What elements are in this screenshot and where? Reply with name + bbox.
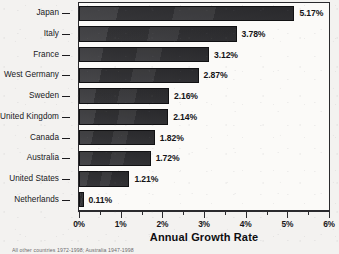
category-tick bbox=[62, 179, 70, 180]
bar-value-label: 2.16% bbox=[174, 91, 198, 101]
bar-value-label: 2.14% bbox=[173, 112, 197, 122]
bar[interactable] bbox=[79, 109, 168, 124]
bar-row: 2.87% bbox=[79, 68, 329, 83]
category-tick bbox=[62, 13, 70, 14]
x-axis-tick-label: 5% bbox=[281, 219, 293, 229]
bar[interactable] bbox=[79, 151, 151, 166]
x-axis-major-tick bbox=[204, 211, 205, 218]
x-axis-tick-label: 6% bbox=[323, 219, 335, 229]
x-axis-major-tick bbox=[79, 211, 80, 218]
x-axis-tick-label: 2% bbox=[156, 219, 168, 229]
x-axis-tick-label: 1% bbox=[115, 219, 127, 229]
category-tick bbox=[62, 34, 70, 35]
category-label: Japan bbox=[0, 9, 70, 17]
x-axis-tick-label: 3% bbox=[198, 219, 210, 229]
x-axis-minor-tick bbox=[100, 211, 101, 215]
x-axis-major-tick bbox=[121, 211, 122, 218]
bar-row: 1.21% bbox=[79, 171, 329, 186]
x-axis-major-tick bbox=[162, 211, 163, 218]
x-axis-minor-tick bbox=[267, 211, 268, 215]
bar[interactable] bbox=[79, 6, 294, 21]
category-label: France bbox=[0, 51, 70, 59]
x-axis-tick-label: 4% bbox=[240, 219, 252, 229]
bar[interactable] bbox=[79, 47, 209, 62]
bar-row: 2.16% bbox=[79, 88, 329, 103]
bar-value-label: 2.87% bbox=[204, 70, 228, 80]
bar-row: 1.82% bbox=[79, 130, 329, 145]
bar-row: 2.14% bbox=[79, 109, 329, 124]
bar[interactable] bbox=[79, 171, 129, 186]
category-label-column: JapanItalyFranceWest GermanySwedenUnited… bbox=[0, 4, 70, 212]
bar-value-label: 3.12% bbox=[214, 50, 238, 60]
category-label: Italy bbox=[0, 30, 70, 38]
category-label: Canada bbox=[0, 134, 70, 142]
category-tick bbox=[62, 117, 70, 118]
category-tick bbox=[62, 96, 70, 97]
chart-footnote: All other countries 1972-1998; Australia… bbox=[12, 247, 134, 253]
category-label: United Kingdom bbox=[0, 113, 70, 121]
x-axis-minor-tick bbox=[142, 211, 143, 215]
bar[interactable] bbox=[79, 26, 237, 41]
bars-layer: 5.17%3.78%3.12%2.87%2.16%2.14%1.82%1.72%… bbox=[79, 3, 329, 210]
category-tick bbox=[62, 138, 70, 139]
bar-row: 5.17% bbox=[79, 6, 329, 21]
category-label: Netherlands bbox=[0, 196, 70, 204]
category-label: West Germany bbox=[0, 71, 70, 79]
bar[interactable] bbox=[79, 68, 199, 83]
bar-value-label: 0.11% bbox=[89, 195, 112, 205]
category-tick bbox=[62, 75, 70, 76]
bar-row: 3.12% bbox=[79, 47, 329, 62]
bar-value-label: 5.17% bbox=[299, 8, 323, 18]
x-axis-title: Annual Growth Rate bbox=[78, 231, 330, 243]
bar-chart-figure: JapanItalyFranceWest GermanySwedenUnited… bbox=[0, 0, 339, 254]
bar[interactable] bbox=[79, 130, 155, 145]
x-axis-major-tick bbox=[329, 211, 330, 218]
category-label: Sweden bbox=[0, 92, 70, 100]
bar[interactable] bbox=[79, 88, 169, 103]
category-tick bbox=[62, 200, 70, 201]
category-label: Australia bbox=[0, 154, 70, 162]
bar-row: 0.11% bbox=[79, 192, 329, 207]
x-axis-minor-tick bbox=[308, 211, 309, 215]
bar-value-label: 1.82% bbox=[160, 133, 184, 143]
bar-row: 3.78% bbox=[79, 26, 329, 41]
x-axis-major-tick bbox=[287, 211, 288, 218]
x-axis-minor-tick bbox=[183, 211, 184, 215]
x-axis-minor-tick bbox=[225, 211, 226, 215]
category-label: United States bbox=[0, 175, 70, 183]
x-axis-major-tick bbox=[246, 211, 247, 218]
x-axis-tick-label: 0% bbox=[73, 219, 85, 229]
bar-value-label: 1.21% bbox=[134, 174, 158, 184]
bar-value-label: 3.78% bbox=[242, 29, 266, 39]
bar-value-label: 1.72% bbox=[156, 153, 180, 163]
category-tick bbox=[62, 158, 70, 159]
bar-row: 1.72% bbox=[79, 151, 329, 166]
category-tick bbox=[62, 55, 70, 56]
bar[interactable] bbox=[79, 192, 84, 207]
